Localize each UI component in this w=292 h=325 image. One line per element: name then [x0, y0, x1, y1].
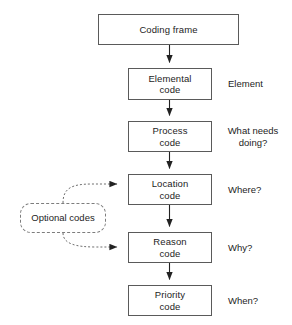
node-optional-codes[interactable]: Optional codes [20, 203, 106, 233]
node-process-code-label: Process code [152, 125, 187, 148]
node-coding-frame[interactable]: Coding frame [98, 14, 239, 45]
node-coding-frame-label: Coding frame [139, 24, 197, 36]
node-location-code-label: Location code [152, 178, 189, 201]
node-elemental-code[interactable]: Elemental code [128, 68, 212, 100]
side-label-why: Why? [228, 242, 252, 254]
connector-optional-codes-to-reason-code [63, 233, 117, 247]
side-label-where: Where? [228, 184, 261, 196]
side-label-element: Element [228, 78, 263, 90]
flowchart-diagram: Coding frame Elemental code Process code… [0, 0, 292, 325]
node-priority-code[interactable]: Priority code [128, 285, 212, 316]
side-label-what-needs-doing: What needs doing? [224, 125, 282, 148]
node-elemental-code-label: Elemental code [148, 73, 191, 96]
node-reason-code[interactable]: Reason code [128, 232, 212, 263]
node-location-code[interactable]: Location code [128, 174, 212, 205]
node-optional-codes-label: Optional codes [31, 212, 94, 224]
connector-layer [0, 0, 292, 325]
side-label-when: When? [228, 295, 258, 307]
node-reason-code-label: Reason code [153, 236, 186, 259]
node-priority-code-label: Priority code [155, 289, 185, 312]
node-process-code[interactable]: Process code [128, 121, 212, 152]
connector-optional-codes-to-location-code [63, 184, 117, 203]
